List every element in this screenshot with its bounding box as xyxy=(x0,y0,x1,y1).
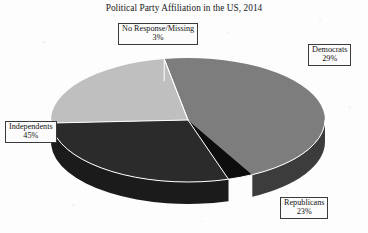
callout-no-response-value: 3% xyxy=(122,34,194,43)
callout-no-response: No Response/Missing 3% xyxy=(118,23,198,45)
chart-page: Political Party Affiliation in the US, 2… xyxy=(0,0,368,233)
callout-independents: Independents 45% xyxy=(5,121,57,143)
callout-democrats-value: 29% xyxy=(312,55,347,64)
callout-democrats: Democrats 29% xyxy=(308,44,351,66)
callout-independents-value: 45% xyxy=(9,132,53,141)
callout-republicans: Republicans 23% xyxy=(280,197,328,219)
callout-republicans-value: 23% xyxy=(284,208,324,217)
